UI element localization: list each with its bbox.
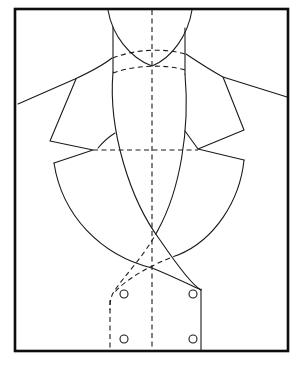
right-roll-line-upper — [158, 74, 186, 230]
right-lapel-outline — [198, 77, 244, 160]
right-notch-line — [185, 131, 198, 149]
collar-upper-dashed — [113, 50, 185, 58]
right-roll-line-hidden — [110, 230, 158, 310]
button-top-left — [120, 290, 128, 298]
right-shoulder-line — [186, 54, 287, 97]
button-bottom-left — [120, 335, 128, 343]
right-front-edge-hidden — [115, 255, 178, 292]
left-shoulder-line — [18, 58, 112, 104]
left-front-edge-curve — [54, 163, 201, 290]
right-front-edge-curve — [178, 160, 244, 255]
button-bottom-right — [189, 335, 197, 343]
left-notch-curve — [98, 133, 115, 148]
collar-lower-dashed — [113, 66, 185, 73]
jacket-pattern-diagram — [0, 0, 304, 368]
neck-curve — [108, 10, 192, 66]
left-roll-line — [112, 72, 201, 290]
left-lapel-outline — [50, 79, 93, 163]
button-top-right — [189, 290, 197, 298]
